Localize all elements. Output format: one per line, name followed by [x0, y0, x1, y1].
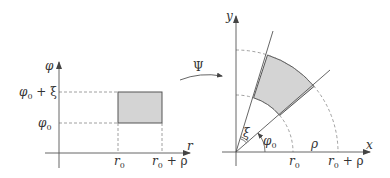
polar-coordinate-diagram: φ r φ0 + ξ φ0 r0 r0 + ρ Ψ y x ξ φ0 ρ r0 … [0, 0, 390, 178]
parameter-rectangle [118, 92, 162, 123]
mapping-arrow: Ψ [180, 60, 222, 80]
angle-xi-label: ξ [243, 126, 251, 140]
tick-r0-plus-rho-right: r0 + ρ [328, 154, 364, 170]
left-panel: φ r φ0 + ξ φ0 r0 r0 + ρ [19, 59, 194, 170]
rho-label: ρ [310, 137, 318, 151]
angle-phi0-label: φ0 [263, 134, 277, 150]
y-axis-label: y [225, 9, 233, 23]
psi-label: Ψ [193, 60, 204, 74]
x-axis-label: x [366, 138, 373, 152]
right-panel: y x ξ φ0 ρ r0 r0 + ρ [222, 9, 373, 170]
tick-r0-right: r0 [289, 154, 300, 170]
phi-axis-label: φ [45, 59, 54, 73]
tick-r0-plus-rho: r0 + ρ [152, 154, 188, 170]
tick-phi0-plus-xi: φ0 + ξ [19, 85, 57, 101]
tick-r0: r0 [114, 154, 125, 170]
tick-phi0: φ0 [38, 116, 52, 132]
r-axis-label: r [187, 139, 194, 153]
